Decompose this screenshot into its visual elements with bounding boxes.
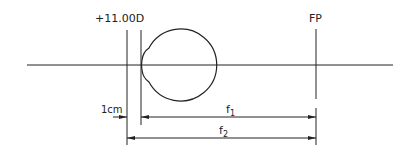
f2-label: f2 (219, 124, 228, 139)
eye-optics-diagram: +11.00D FP 1cm f1 f2 (0, 0, 410, 155)
f1-label: f1 (226, 103, 235, 118)
far-point-label: FP (309, 12, 322, 25)
distance-label: 1cm (101, 104, 123, 115)
lens-power-label: +11.00D (95, 12, 144, 25)
